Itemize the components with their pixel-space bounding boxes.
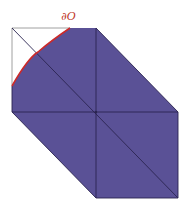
- diagram-canvas: ∂O: [0, 0, 186, 209]
- boundary-label: ∂O: [61, 10, 76, 23]
- center-point: [95, 111, 97, 113]
